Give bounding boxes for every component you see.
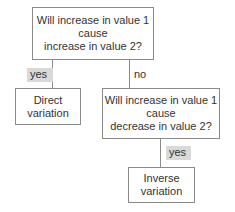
result-direct-variation-box: Direct variation <box>15 88 81 125</box>
question-decrease-line-1: Will increase in value 1 <box>105 94 218 107</box>
question-increase-box: Will increase in value 1 cause increase … <box>32 7 154 60</box>
result-inverse-variation-box: Inverse variation <box>128 167 195 203</box>
inverse-line-1: Inverse <box>141 172 183 185</box>
question-decrease-line-3: decrease in value 2? <box>105 120 218 133</box>
direct-line-1: Direct <box>27 94 69 107</box>
inverse-line-2: variation <box>141 185 183 198</box>
edge-label-no: no <box>131 68 149 81</box>
connector-q1-to-q2 <box>129 59 130 88</box>
connector-q2-to-inverse <box>160 138 161 167</box>
question-increase-line-3: increase in value 2? <box>37 40 150 53</box>
edge-label-yes-direct: yes <box>27 68 53 82</box>
direct-line-2: variation <box>27 107 69 120</box>
question-decrease-box: Will increase in value 1 cause decrease … <box>102 88 220 139</box>
edge-label-yes-inverse: yes <box>166 146 191 160</box>
question-increase-line-2: cause <box>37 27 150 40</box>
question-decrease-line-2: cause <box>105 107 218 120</box>
question-increase-line-1: Will increase in value 1 <box>37 14 150 27</box>
